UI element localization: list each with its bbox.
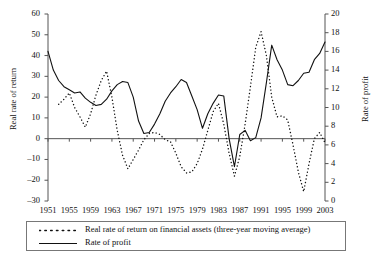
y-tick-label-left-7: –10 — [18, 153, 40, 163]
y-tick-label-left-8: –20 — [18, 174, 40, 184]
chart-figure: Real rate of return Rate of profit 60504… — [0, 0, 373, 264]
y-tick-label-right-1: 18 — [331, 27, 349, 37]
y-tick-label-left-2: 40 — [18, 50, 40, 60]
legend-label-1: Rate of profit — [85, 237, 131, 247]
y-tick-label-left-3: 30 — [18, 70, 40, 80]
y-tick-label-left-5: 10 — [18, 112, 40, 122]
y-tick-label-left-0: 60 — [18, 8, 40, 18]
y-tick-label-right-6: 8 — [331, 120, 349, 130]
series-line-0 — [59, 32, 325, 192]
y-tick-label-left-9: –30 — [18, 195, 40, 205]
series-line-1 — [48, 42, 325, 167]
y-tick-label-right-2: 16 — [331, 45, 349, 55]
y-tick-label-right-5: 10 — [331, 102, 349, 112]
series-group — [48, 32, 325, 192]
y-tick-label-right-9: 2 — [331, 176, 349, 186]
y-tick-label-left-6: 0 — [18, 133, 40, 143]
y-tick-label-right-10: 0 — [331, 195, 349, 205]
y-tick-label-right-8: 4 — [331, 158, 349, 168]
y-axis-left-title: Real rate of return — [8, 39, 18, 159]
y-tick-label-left-1: 50 — [18, 29, 40, 39]
chart-legend: Real rate of return on financial assets … — [26, 221, 346, 251]
x-tick-label-13: 2003 — [312, 205, 338, 215]
y-tick-label-right-4: 12 — [331, 83, 349, 93]
y-tick-label-right-0: 20 — [331, 8, 349, 18]
legend-swatch-solid — [39, 242, 77, 245]
legend-swatch-dotted — [39, 229, 77, 232]
legend-item-1: Rate of profit — [27, 237, 345, 250]
y-tick-label-left-4: 20 — [18, 91, 40, 101]
legend-label-0: Real rate of return on financial assets … — [85, 224, 310, 234]
y-axis-right-title: Rate of profit — [360, 39, 370, 159]
y-tick-label-right-7: 6 — [331, 139, 349, 149]
y-tick-label-right-3: 14 — [331, 64, 349, 74]
legend-item-0: Real rate of return on financial assets … — [27, 224, 345, 237]
